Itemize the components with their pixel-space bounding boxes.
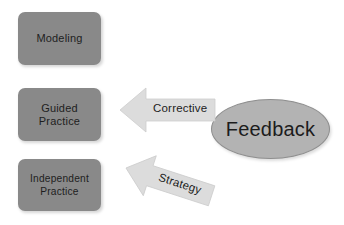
arrow-strategy[interactable]: Strategy [120, 148, 219, 216]
arrow-corrective[interactable]: Corrective [120, 88, 215, 132]
stage-box-guided-practice[interactable]: Guided Practice [18, 88, 101, 141]
feedback-ellipse-node[interactable]: Feedback [211, 99, 330, 159]
arrow-corrective-label: Corrective [153, 102, 207, 114]
stage-box-independent-practice[interactable]: Independent Practice [18, 159, 101, 211]
diagram-canvas: Modeling Guided Practice Independent Pra… [0, 0, 344, 225]
stage-box-independent-practice-label: Independent Practice [30, 172, 89, 198]
feedback-node-label: Feedback [226, 118, 315, 141]
stage-box-modeling[interactable]: Modeling [18, 12, 101, 65]
stage-box-guided-practice-label: Guided Practice [39, 102, 80, 128]
stage-box-modeling-label: Modeling [36, 32, 82, 45]
